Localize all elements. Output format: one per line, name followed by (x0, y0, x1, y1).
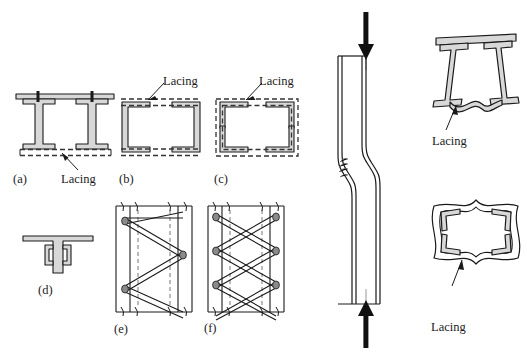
top-batten-plate (16, 94, 114, 99)
figure-c-svg (208, 92, 312, 172)
lacing-rivets-f (213, 213, 280, 289)
figure-c-caption: (c) (214, 172, 228, 187)
right-channel-section (172, 102, 200, 152)
deformed-right-i-section (484, 41, 519, 105)
deformed-box-svg (426, 190, 526, 308)
left-small-channel (45, 245, 53, 265)
figure-e-svg (108, 200, 200, 320)
right-small-channel (63, 245, 71, 265)
figure-b-svg (112, 92, 212, 170)
figure-a-two-i-sections (10, 86, 122, 168)
deformed-i-pair-lacing-label: Lacing (432, 134, 467, 149)
hidden-chord-lines-e (138, 210, 170, 308)
figure-c-lacing-label: Lacing (259, 74, 294, 89)
bottom-load-arrow (358, 300, 374, 348)
deformed-left-i-section (433, 43, 468, 107)
figure-b-two-channels (112, 92, 212, 170)
figure-d-svg (18, 228, 98, 280)
buckled-column-svg (318, 4, 414, 356)
figure-e-caption: (e) (114, 322, 128, 337)
lacing-rivets-e (122, 217, 187, 293)
diagram-canvas: (a) Lacing (0, 0, 527, 358)
figure-b-lacing-label: Lacing (163, 74, 198, 89)
figure-e-single-lacing (108, 200, 200, 320)
angle-bottom-right (266, 126, 294, 152)
double-lacing-bars (216, 214, 276, 320)
deformed-i-pair-section (428, 30, 524, 122)
figure-a-svg (10, 86, 122, 168)
lacing-leader-b (148, 83, 164, 100)
single-lacing-bars (125, 212, 183, 318)
deformed-lacing-leader-bottom (452, 260, 464, 286)
deformed-box-lacing-label: Lacing (431, 320, 466, 335)
tee-section (23, 236, 93, 273)
bottom-lacing-dashed (20, 150, 111, 156)
left-channel-section (122, 102, 150, 152)
buckled-column-elevation (318, 4, 414, 356)
top-load-arrow (358, 12, 374, 60)
column-body (338, 56, 380, 304)
deformed-i-pair-svg (428, 30, 524, 122)
figure-f-svg (200, 200, 292, 320)
figure-b-caption: (b) (119, 172, 134, 187)
deformed-box-section (426, 190, 526, 308)
angle-bottom-left (220, 126, 248, 152)
figure-d-tee-with-channels (18, 228, 98, 280)
figure-f-double-lacing (200, 200, 292, 320)
right-i-section (76, 99, 108, 149)
figure-c-four-angles-box (208, 92, 312, 172)
figure-f-caption: (f) (204, 321, 217, 336)
figure-a-lacing-label: Lacing (61, 172, 96, 187)
left-i-section (23, 99, 55, 149)
figure-a-caption: (a) (13, 172, 27, 187)
figure-d-caption: (d) (38, 283, 53, 298)
